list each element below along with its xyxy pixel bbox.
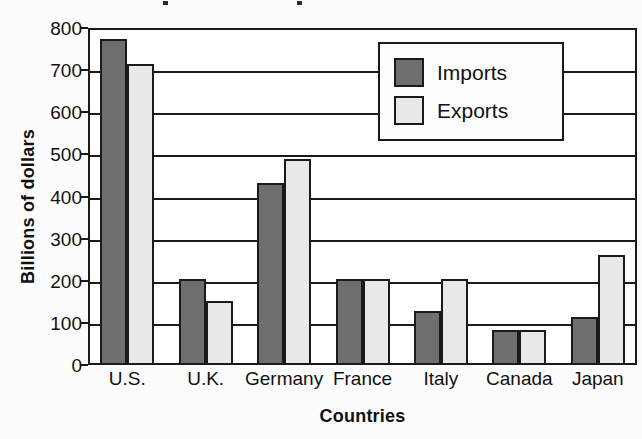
y-axis-tickmark [80,364,88,366]
x-tick-label-japan: Japan [572,369,624,388]
gridline [90,240,635,242]
y-axis-tickmark [80,69,88,71]
x-tick-label-us: U.S. [109,369,146,388]
x-tick-label-uk: U.K. [187,369,224,388]
chart-page: Billions of dollars 01002003004005006007… [0,0,642,439]
gridline [90,155,635,157]
y-axis-tickmark [80,153,88,155]
y-axis-tick-labels: 0100200300400500600700800 [32,28,82,365]
y-tick-label: 100 [32,313,82,332]
y-tick-label: 0 [32,356,82,375]
y-axis-tickmark [80,196,88,198]
legend-swatch-exports [394,96,424,125]
y-axis-tickmark [80,238,88,240]
gridline [90,282,635,284]
x-axis-title: Countries [88,406,637,427]
x-tick-label-canada: Canada [486,369,553,388]
cropped-title-remnant [0,0,642,12]
x-tick-label-italy: Italy [423,369,458,388]
legend-swatch-imports [394,58,424,87]
gridline [90,198,635,200]
y-tick-label: 200 [32,271,82,290]
y-tick-label: 300 [32,229,82,248]
y-axis-tickmark [80,27,88,29]
legend-entry-exports: Exports [394,96,508,125]
x-tick-label-france: France [333,369,392,388]
legend-entry-imports: Imports [394,58,507,87]
y-tick-label: 400 [32,187,82,206]
y-tick-label: 600 [32,103,82,122]
y-axis-tickmark [80,322,88,324]
gridline [90,324,635,326]
y-tick-label: 500 [32,145,82,164]
y-tick-label: 800 [32,19,82,38]
x-tick-label-germany: Germany [245,369,323,388]
legend-label-imports: Imports [437,62,507,83]
x-axis-tick-labels: U.S.U.K.GermanyFranceItalyCanadaJapan [88,369,637,395]
y-axis-tickmark [80,280,88,282]
y-tick-label: 700 [32,61,82,80]
chart-legend: Imports Exports [378,42,564,141]
legend-label-exports: Exports [437,100,508,121]
y-axis-tickmark [80,111,88,113]
